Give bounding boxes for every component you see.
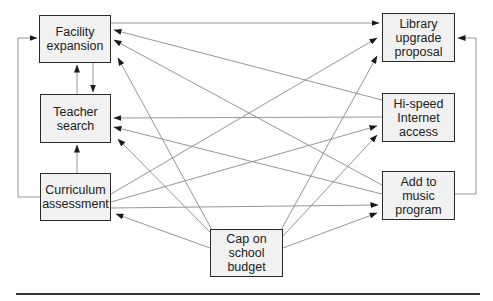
node-facility-expansion: Facility expansion	[39, 15, 111, 63]
edge-cap-music	[283, 213, 377, 248]
edge-curriculum-facility	[18, 38, 40, 197]
edge-cap-curriculum	[116, 214, 210, 248]
edge-cap-facility	[118, 58, 212, 230]
edge-cap-teacher	[118, 139, 210, 232]
influence-diagram: Facility expansion Teacher search Curric…	[0, 0, 493, 301]
edge-internet-facility	[114, 30, 382, 100]
node-teacher-search: Teacher search	[40, 94, 111, 143]
bottom-rule	[16, 293, 480, 295]
edge-music-teacher	[114, 127, 382, 194]
node-curriculum-assessment: Curriculum assessment	[40, 173, 111, 221]
edge-cap-library	[281, 56, 377, 230]
edge-cap-internet	[283, 135, 377, 236]
edge-internet-teacher	[114, 117, 382, 118]
edge-music-library	[455, 38, 476, 194]
edge-curriculum-library	[111, 38, 377, 194]
edge-curriculum-music	[111, 205, 378, 208]
node-library-upgrade-proposal: Library upgrade proposal	[382, 13, 455, 62]
node-add-to-music-program: Add to music program	[382, 171, 455, 220]
node-hi-speed-internet-access: Hi-speed Internet access	[382, 93, 455, 142]
edge-curriculum-internet	[111, 126, 377, 202]
node-cap-on-school-budget: Cap on school budget	[210, 229, 283, 277]
